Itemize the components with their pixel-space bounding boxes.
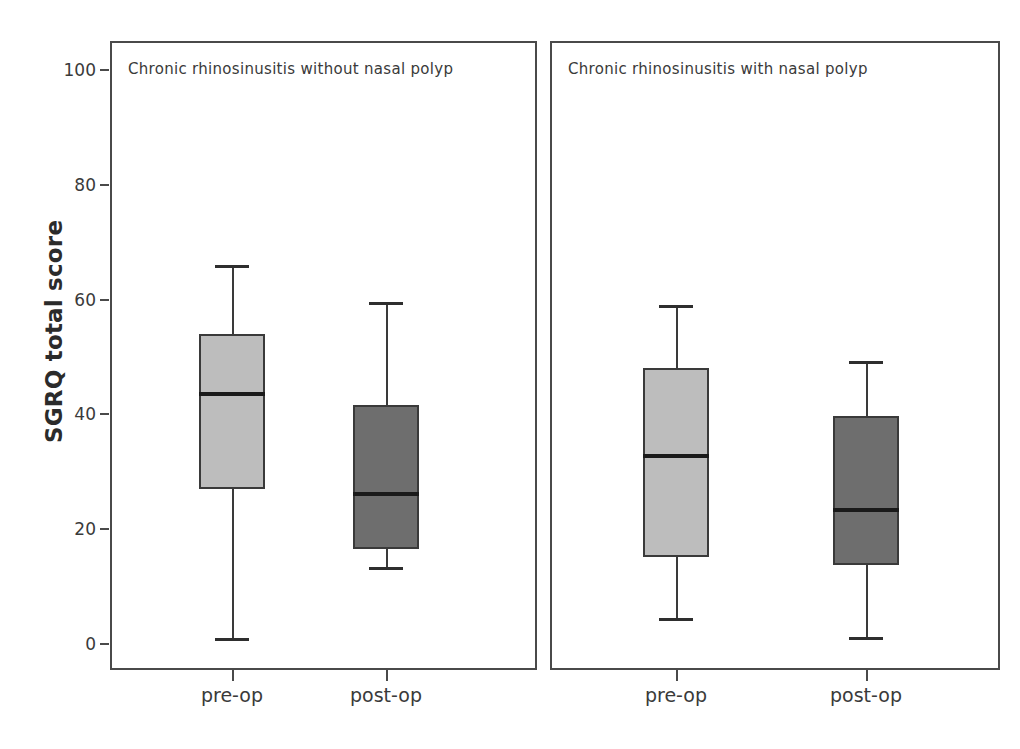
- panel-right-title: Chronic rhinosinusitis with nasal polyp: [568, 60, 868, 78]
- box-iqr: [353, 405, 419, 550]
- panel-left-title: Chronic rhinosinusitis without nasal pol…: [128, 60, 453, 78]
- whisker-cap-upper: [849, 361, 883, 364]
- whisker-cap-lower: [215, 638, 249, 641]
- whisker-upper: [232, 265, 234, 334]
- y-tick-mark-100: [100, 69, 109, 71]
- whisker-cap-lower: [369, 567, 403, 570]
- y-tick-mark-20: [100, 528, 109, 530]
- y-tick-label-0: 0: [50, 634, 96, 654]
- whisker-lower: [676, 557, 678, 618]
- y-tick-label-40: 40: [50, 404, 96, 424]
- y-tick-label-20: 20: [50, 519, 96, 539]
- x-tick-label-post-op: post-op: [350, 684, 422, 706]
- x-tick-mark-pre-op: [676, 670, 678, 681]
- median-line: [353, 492, 419, 496]
- panel-with-nasal-polyp: Chronic rhinosinusitis with nasal polyp: [550, 41, 1000, 670]
- boxplot-figure: SGRQ total score 020406080100 Chronic rh…: [0, 0, 1020, 749]
- panel-without-nasal-polyp: Chronic rhinosinusitis without nasal pol…: [110, 41, 537, 670]
- x-tick-mark-post-op: [386, 670, 388, 681]
- x-tick-label-post-op: post-op: [830, 684, 902, 706]
- box-iqr: [833, 416, 899, 565]
- y-tick-mark-40: [100, 413, 109, 415]
- y-tick-mark-80: [100, 184, 109, 186]
- y-axis-tick-labels: 020406080100: [50, 0, 96, 749]
- y-tick-mark-0: [100, 643, 109, 645]
- whisker-cap-upper: [215, 265, 249, 268]
- whisker-upper: [676, 305, 678, 368]
- x-tick-mark-pre-op: [232, 670, 234, 681]
- median-line: [833, 508, 899, 512]
- x-tick-label-pre-op: pre-op: [201, 684, 263, 706]
- whisker-cap-lower: [659, 618, 693, 621]
- whisker-upper: [386, 302, 388, 405]
- whisker-lower: [232, 489, 234, 638]
- median-line: [199, 392, 265, 396]
- y-tick-label-60: 60: [50, 290, 96, 310]
- y-tick-label-80: 80: [50, 175, 96, 195]
- whisker-upper: [866, 361, 868, 416]
- y-tick-label-100: 100: [50, 60, 96, 80]
- box-iqr: [199, 334, 265, 489]
- whisker-cap-lower: [849, 637, 883, 640]
- x-tick-mark-post-op: [866, 670, 868, 681]
- x-tick-label-pre-op: pre-op: [645, 684, 707, 706]
- median-line: [643, 454, 709, 458]
- whisker-cap-upper: [369, 302, 403, 305]
- whisker-lower: [386, 549, 388, 566]
- box-iqr: [643, 368, 709, 556]
- whisker-cap-upper: [659, 305, 693, 308]
- whisker-lower: [866, 565, 868, 637]
- y-tick-mark-60: [100, 299, 109, 301]
